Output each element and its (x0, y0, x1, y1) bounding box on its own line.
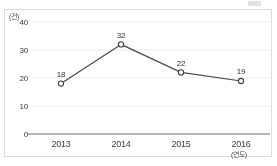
x-tick-label-2014: 2014 (98, 139, 144, 149)
data-point-marker-2014 (118, 42, 123, 47)
data-label-2015: 22 (169, 59, 193, 68)
data-label-2014: 32 (109, 31, 133, 40)
line-chart-figure: (건) 40 30 20 10 0 18 32 22 19 2013 2014 … (0, 0, 277, 166)
x-axis-unit-label: (연도) (216, 149, 262, 159)
data-point-marker-2016 (238, 78, 243, 83)
data-point-marker-2013 (58, 81, 63, 86)
data-label-2013: 18 (49, 70, 73, 79)
x-tick-label-2016: 2016 (218, 139, 264, 149)
x-tick-label-2015: 2015 (158, 139, 204, 149)
x-tick-label-2013: 2013 (38, 139, 84, 149)
data-label-2016: 19 (229, 67, 253, 76)
data-point-marker-2015 (178, 70, 183, 75)
